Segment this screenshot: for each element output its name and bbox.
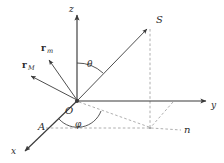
origin-label: O [65, 105, 73, 116]
z-axis-label: z [68, 4, 74, 14]
diagram-canvas: z y x O S A n θ φ r m r M [0, 0, 224, 163]
vector-r-m-label: r m [41, 43, 53, 55]
projection-to-n [151, 128, 181, 130]
coordinate-system-figure: z y x O S A n θ φ r m r M [0, 0, 224, 163]
ground-projection-line [79, 102, 149, 127]
point-a-label: A [37, 121, 45, 132]
polar-angle-label: θ [87, 59, 93, 69]
source-point-label: S [156, 14, 163, 25]
x-axis-label: x [11, 146, 16, 156]
vectors-group [31, 60, 77, 100]
angle-arcs [59, 63, 103, 127]
vector-r-m-line [49, 60, 77, 100]
azimuthal-angle-label: φ [75, 119, 82, 129]
node-point-label: n [184, 124, 190, 135]
vector-r-m-subscript: m [47, 47, 53, 55]
vector-r-M-line [31, 76, 77, 100]
vector-r-M-label: r M [22, 60, 35, 72]
vector-r-M-subscript: M [27, 64, 35, 72]
y-axis-tick-to-ground [151, 102, 173, 127]
axes-group [25, 15, 206, 151]
origin-dot [75, 99, 79, 103]
y-axis-label: y [210, 100, 217, 110]
projection-dot [149, 127, 151, 129]
vector-r-m-symbol: r [41, 43, 46, 53]
vector-r-M-symbol: r [22, 60, 27, 70]
